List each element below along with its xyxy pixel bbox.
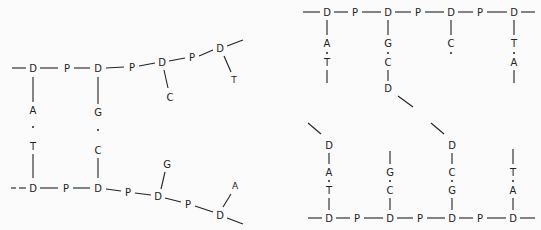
right-top-sugar-4: D: [510, 7, 518, 18]
left-bottom-base-g: G: [163, 159, 171, 170]
right-bottom-sugar-4: D: [509, 213, 517, 224]
right-top-sugar-1: D: [323, 7, 331, 18]
hydrogen-bond-dot: [513, 52, 515, 54]
left-top-base-c: C: [167, 92, 174, 103]
right-top-col4-base-a: A: [511, 57, 518, 68]
left-bottom-sugar-4: D: [216, 210, 224, 221]
right-bottom-col1-sugar: D: [325, 140, 333, 151]
right-top-col1-base-t: T: [323, 57, 331, 68]
hydrogen-bond-dot: [328, 180, 330, 182]
right-bottom-col1-base-a: A: [326, 167, 333, 178]
right-top-phosphate-2: P: [415, 7, 421, 18]
right-bottom-col3-base-g: G: [448, 185, 456, 196]
right-bottom-col4-base-a: A: [510, 185, 517, 196]
right-top-sugar-2: D: [384, 7, 392, 18]
right-top-backbone: [303, 12, 535, 107]
left-top-backbone: [12, 40, 243, 88]
right-bottom-sugar-3: D: [448, 213, 456, 224]
hydrogen-bond-dot: [450, 52, 452, 54]
right-top-phosphate-3: P: [477, 7, 483, 18]
right-top-col2-sugar: D: [384, 83, 392, 94]
hydrogen-bond-dot: [32, 126, 34, 128]
hydrogen-bond-dot: [97, 129, 99, 131]
left-bottom-sugar-2: D: [94, 183, 102, 194]
right-bottom-col4-base-t: T: [509, 167, 517, 178]
hydrogen-bond-dot: [512, 180, 514, 182]
right-bottom-phosphate-1: P: [354, 213, 360, 224]
left-bottom-phosphate-3: P: [185, 199, 191, 210]
right-bottom-col2-base-c: C: [387, 185, 394, 196]
hydrogen-bond-dot: [389, 180, 391, 182]
right-top-col3-base-c: C: [448, 38, 455, 49]
right-top-col2-base-c: C: [385, 57, 392, 68]
right-top-col2-base-g: G: [384, 38, 392, 49]
right-bottom-backbone: [308, 123, 535, 218]
left-bottom-base-a: A: [232, 181, 239, 191]
right-top-sugar-3: D: [447, 7, 455, 18]
left-pair2-base-g: G: [94, 107, 102, 118]
right-bottom-phosphate-3: P: [477, 213, 483, 224]
right-top-col4-base-t: T: [510, 38, 518, 49]
left-bottom-backbone: [11, 172, 243, 224]
right-bottom-phosphate-2: P: [417, 213, 423, 224]
left-top-sugar-3: D: [158, 57, 166, 68]
right-bottom-sugar-1: D: [325, 213, 333, 224]
hydrogen-bond-dot: [387, 52, 389, 54]
right-top-phosphate-1: P: [352, 7, 358, 18]
dna-diagram: D P D P D P D C T A T G C: [0, 0, 541, 230]
left-base-pair-lines: [33, 77, 98, 178]
right-bottom-col3-base-c: C: [449, 167, 456, 178]
left-bottom-sugar-3: D: [154, 191, 162, 202]
left-top-phosphate-2: P: [129, 62, 135, 73]
left-top-phosphate-1: P: [64, 63, 70, 74]
left-bottom-phosphate-2: P: [125, 187, 131, 198]
right-top-col1-base-a: A: [324, 38, 331, 49]
left-top-sugar-4: D: [216, 43, 224, 54]
hydrogen-bond-dot: [326, 52, 328, 54]
left-bottom-phosphate-1: P: [63, 183, 69, 194]
left-top-sugar-1: D: [29, 63, 37, 74]
left-bottom-sugar-1: D: [29, 183, 37, 194]
left-top-sugar-2: D: [94, 63, 102, 74]
left-pair2-base-c: C: [95, 145, 102, 156]
right-bottom-col1-base-t: T: [325, 185, 333, 196]
right-bottom-col2-base-g: G: [386, 167, 394, 178]
hydrogen-bond-dot: [451, 180, 453, 182]
left-pair1-base-t: T: [29, 141, 37, 152]
right-bottom-col3-sugar: D: [448, 140, 456, 151]
left-top-base-t: T: [230, 75, 237, 85]
left-panel: D P D P D P D C T A T G C: [11, 40, 243, 224]
right-panel: D P D P D P D A T G C D C T A: [303, 7, 535, 224]
right-bottom-sugar-2: D: [386, 213, 394, 224]
left-pair1-base-a: A: [30, 105, 37, 116]
left-top-phosphate-3: P: [189, 52, 195, 63]
